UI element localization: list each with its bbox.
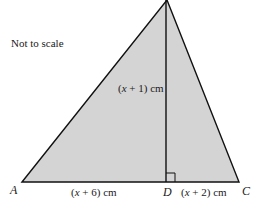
height-post: + 1) cm: [127, 82, 164, 94]
point-d-label: D: [163, 186, 172, 198]
point-a-label: A: [10, 184, 17, 196]
point-c-label: C: [242, 185, 250, 197]
length-dc-label: (x + 2) cm: [181, 187, 227, 198]
height-bd-label: (x + 1) cm: [118, 83, 164, 94]
dc-post: + 2) cm: [190, 186, 227, 198]
length-ad-label: (x + 6) cm: [71, 187, 117, 198]
triangle-diagram: Not to scale (x + 1) cm A D C (x + 6) cm…: [0, 0, 268, 198]
triangle-figure: [0, 0, 268, 198]
not-to-scale-note: Not to scale: [11, 38, 64, 49]
ad-post: + 6) cm: [80, 186, 117, 198]
